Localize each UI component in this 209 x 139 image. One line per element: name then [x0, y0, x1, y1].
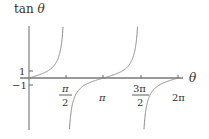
tan-theta-chart: tan θ θ 1 −1 π 2 π 3π 2 2π — [0, 0, 209, 139]
tan-branch-1 — [29, 27, 63, 78]
x-tick-label-pi: π — [98, 92, 106, 103]
y-tick-label-neg1: −1 — [12, 80, 27, 91]
tan-branch-3 — [144, 78, 178, 129]
x-tick-label-pi-half-num: π — [61, 83, 69, 94]
x-tick-label-3pi-half-den: 2 — [137, 97, 143, 108]
x-tick-label-2pi: 2π — [172, 92, 185, 103]
x-tick-label-pi-half-den: 2 — [62, 97, 68, 108]
y-tick-label-1: 1 — [19, 66, 25, 77]
x-tick-label-3pi-half-num: 3π — [133, 83, 146, 94]
x-axis-label: θ — [189, 71, 197, 85]
y-axis-label-tan: tan θ — [14, 2, 46, 16]
